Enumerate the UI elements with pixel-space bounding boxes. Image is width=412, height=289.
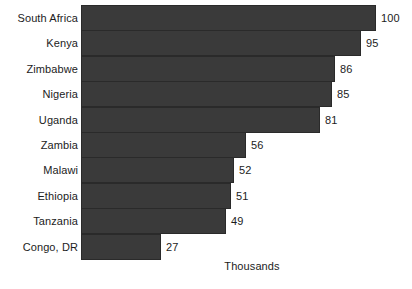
category-label: South Africa [0, 5, 78, 31]
x-axis-title: Thousands [0, 260, 412, 272]
category-label: Zimbabwe [0, 56, 78, 82]
bar-chart: South Africa100Kenya95Zimbabwe86Nigeria8… [0, 0, 412, 289]
bar-track [81, 5, 376, 31]
x-axis-title-text: Thousands [224, 260, 279, 272]
bar-value-label: 81 [325, 107, 337, 133]
bar-track [81, 157, 234, 183]
category-label: Nigeria [0, 81, 78, 107]
bar-track [81, 30, 361, 56]
bar [81, 234, 161, 260]
bar-value-label: 85 [337, 81, 349, 107]
bar-value-label: 52 [239, 157, 251, 183]
category-label: Ethiopia [0, 183, 78, 209]
category-label: Congo, DR [0, 234, 78, 260]
bar-track [81, 107, 320, 133]
bar-row: Zimbabwe86 [0, 56, 412, 82]
bar-track [81, 234, 161, 260]
bar-value-label: 56 [251, 132, 263, 158]
bar-row: Tanzania49 [0, 208, 412, 234]
bar [81, 56, 335, 82]
category-label: Tanzania [0, 208, 78, 234]
bar-row: Nigeria85 [0, 81, 412, 107]
bar-value-label: 100 [381, 5, 400, 31]
bar-row: Kenya95 [0, 30, 412, 56]
bar [81, 183, 231, 209]
bar-value-label: 51 [236, 183, 248, 209]
bar-row: Ethiopia51 [0, 183, 412, 209]
bar-value-label: 49 [231, 208, 243, 234]
bar-track [81, 56, 335, 82]
bar-track [81, 208, 226, 234]
bar [81, 5, 376, 31]
category-label: Malawi [0, 157, 78, 183]
bar [81, 208, 226, 234]
bar [81, 107, 320, 133]
category-label: Uganda [0, 107, 78, 133]
bar-row: Congo, DR27 [0, 234, 412, 260]
bar-track [81, 132, 246, 158]
bar [81, 132, 246, 158]
bar [81, 157, 234, 183]
bar-value-label: 95 [366, 30, 378, 56]
category-label: Kenya [0, 30, 78, 56]
bar-value-label: 27 [166, 234, 178, 260]
bar-track [81, 183, 231, 209]
bar-track [81, 81, 332, 107]
bar [81, 30, 361, 56]
bar-row: Uganda81 [0, 107, 412, 133]
bar-value-label: 86 [340, 56, 352, 82]
bar [81, 81, 332, 107]
bar-row: Zambia56 [0, 132, 412, 158]
bar-row: Malawi52 [0, 157, 412, 183]
plot-area: South Africa100Kenya95Zimbabwe86Nigeria8… [0, 0, 412, 258]
bar-row: South Africa100 [0, 5, 412, 31]
category-label: Zambia [0, 132, 78, 158]
